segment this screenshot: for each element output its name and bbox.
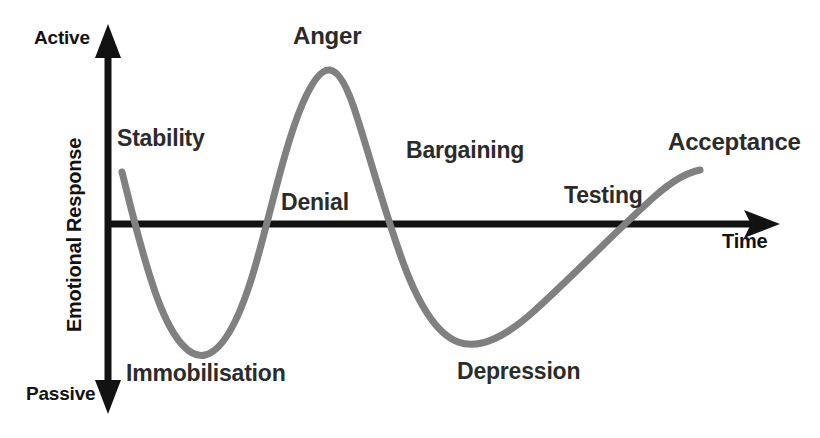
axis-title-emotional-response: Emotional Response [64, 115, 84, 355]
axis-label-active: Active [34, 28, 90, 47]
x-axis [105, 210, 780, 238]
axis-label-passive: Passive [26, 384, 95, 403]
stage-label-stability: Stability [117, 127, 205, 150]
stage-label-denial: Denial [281, 191, 349, 214]
y-axis [95, 24, 121, 414]
stage-label-depression: Depression [457, 360, 580, 383]
axis-title-time: Time [722, 231, 768, 251]
stage-label-immobilisation: Immobilisation [126, 362, 286, 385]
stage-label-testing: Testing [564, 184, 643, 207]
stage-label-anger: Anger [293, 24, 361, 48]
stage-label-bargaining: Bargaining [406, 139, 524, 162]
stage-label-acceptance: Acceptance [668, 130, 801, 154]
change-curve-path [122, 70, 700, 355]
y-axis-up-arrowhead [95, 24, 121, 58]
change-curve-diagram: Active Passive Time Emotional Response S… [0, 0, 820, 438]
diagram-canvas [0, 0, 820, 438]
y-axis-down-arrowhead [95, 380, 121, 414]
